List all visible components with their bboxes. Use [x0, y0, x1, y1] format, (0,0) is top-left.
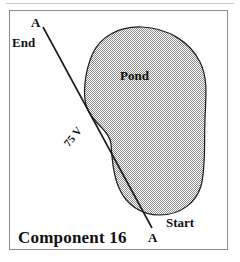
section-label-a-top: A	[31, 16, 40, 29]
end-marker-label: End	[12, 36, 35, 49]
pond-shape	[85, 27, 206, 215]
pond-label: Pond	[120, 69, 149, 82]
figure-caption: Component 16	[18, 228, 127, 248]
section-label-a-bottom: A	[148, 231, 157, 244]
start-marker-label: Start	[166, 216, 194, 229]
figure-page: A End Pond 75 V Start A Component 16	[0, 0, 240, 262]
map-drawing-layer	[0, 0, 240, 262]
